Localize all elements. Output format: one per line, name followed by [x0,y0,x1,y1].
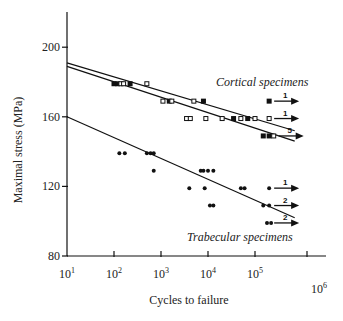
trabecular-point [208,204,212,208]
runout-count: 1 [283,109,288,118]
runout-arrow-head [291,219,299,226]
x-tick-exponent: 6 [323,281,327,290]
x-tick-label: 102 [106,266,122,281]
trabecular-point [203,186,207,190]
fit-line [67,63,295,131]
cortical-point-open [161,99,165,103]
cortical-point-filled [245,116,250,121]
y-tick-label: 120 [42,179,60,193]
y-tick-label: 200 [42,40,60,54]
x-tick-exponent: 2 [118,266,122,275]
trabecular-point [117,151,121,155]
runout-arrow-head [296,132,304,139]
cortical-point-filled [231,116,236,121]
x-tick-label: 106 [311,281,327,296]
cortical-point-filled [267,133,272,138]
trabecular-annotation: Trabecular specimens [187,230,293,244]
x-tick-exponent: 5 [259,266,263,275]
cortical-point-open [220,117,224,121]
cortical-point-open [253,117,257,121]
cortical-point-open [204,117,208,121]
cortical-point-open [192,99,196,103]
trabecular-point [211,169,215,173]
trabecular-point [261,204,265,208]
trabecular-point [267,204,271,208]
runout-arrows: 115122 [274,91,304,226]
cortical-point-open [170,99,174,103]
trabecular-point [145,151,149,155]
runout-count: 5 [287,126,292,135]
y-tick-label: 80 [48,249,60,263]
trabecular-point [201,169,205,173]
x-tick-label: 101 [59,266,75,281]
cortical-point-filled [267,99,272,104]
cortical-annotation: Cortical specimens [216,75,309,89]
cortical-point-open [188,117,192,121]
cortical-point-open [239,117,243,121]
runout-count: 2 [283,196,288,205]
trabecular-point [211,204,215,208]
fatigue-chart: 20016012080101102103104105106 115122 Cor… [0,0,343,321]
x-tick-label: 104 [200,266,216,281]
x-tick-label: 103 [153,266,169,281]
runout-count: 1 [283,178,288,187]
cortical-point-open [145,82,149,86]
axes: 20016012080101102103104105106 [42,12,327,296]
fit-line [67,117,295,218]
cortical-point-open [272,134,276,138]
runout-count: 1 [283,91,288,100]
trabecular-point [123,151,127,155]
runout-arrow-head [291,98,299,105]
trabecular-point [152,151,156,155]
x-tick-exponent: 4 [212,266,216,275]
cortical-point-filled [128,81,133,86]
cortical-point-open [267,117,271,121]
cortical-point-filled [201,99,206,104]
x-tick-label: 105 [247,266,263,281]
trabecular-point [267,186,271,190]
x-tick-exponent: 3 [165,266,169,275]
trabecular-point [269,221,273,225]
runout-arrow-head [291,185,299,192]
y-axis-title: Maximal stress (MPa) [11,97,25,204]
runout-arrow-head [291,115,299,122]
trabecular-point [187,186,191,190]
trabecular-point [206,169,210,173]
x-tick-exponent: 1 [71,266,75,275]
cortical-point-filled [261,133,266,138]
runout-count: 2 [283,213,288,222]
runout-arrow-head [291,202,299,209]
trabecular-point [243,186,247,190]
trabecular-point [152,169,156,173]
cortical-point-open [122,82,126,86]
trabecular-point [239,186,243,190]
trabecular-point [265,221,269,225]
data-points [112,81,276,225]
y-tick-label: 160 [42,110,60,124]
x-axis-title: Cycles to failure [149,293,228,307]
